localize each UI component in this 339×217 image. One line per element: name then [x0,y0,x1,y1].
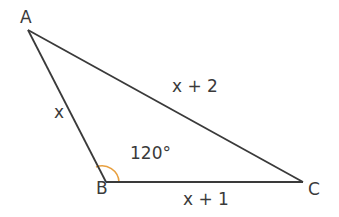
triangle-diagram: A B C x x + 2 x + 1 120° [0,0,339,217]
side-label-bc: x + 1 [183,189,229,209]
vertex-label-c: C [308,179,320,199]
side-ab [28,30,106,182]
vertex-label-b: B [96,178,108,198]
side-label-ab: x [54,102,64,122]
angle-label-b: 120° [130,143,171,163]
triangle-svg: A B C x x + 2 x + 1 120° [0,0,339,217]
vertex-label-a: A [20,7,32,27]
side-label-ac: x + 2 [172,76,218,96]
